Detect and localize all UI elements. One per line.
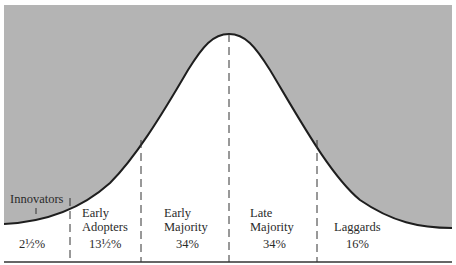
label-late-majority-2: Majority <box>250 220 294 235</box>
label-laggards: Laggards <box>334 220 381 235</box>
percent-late-majority: 34% <box>263 237 286 252</box>
adoption-bell-curve <box>0 0 456 265</box>
percent-early-adopters: 13½% <box>89 237 121 252</box>
label-late-majority-1: Late <box>250 206 272 221</box>
label-early-majority-2: Majority <box>164 220 208 235</box>
percent-laggards: 16% <box>346 237 369 252</box>
label-early-adopters-1: Early <box>82 206 109 221</box>
label-innovators: Innovators <box>10 192 63 207</box>
shaded-area <box>4 5 452 228</box>
label-early-adopters-2: Adopters <box>82 220 128 235</box>
percent-innovators: 2½% <box>19 237 45 252</box>
label-early-majority-1: Early <box>164 206 191 221</box>
percent-early-majority: 34% <box>176 237 199 252</box>
